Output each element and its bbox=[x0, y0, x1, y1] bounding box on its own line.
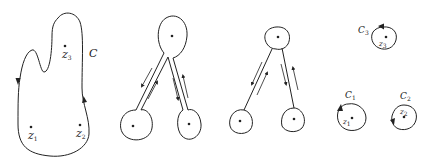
panel-2-contour bbox=[121, 16, 202, 140]
left-cut-inner bbox=[141, 57, 168, 110]
point-dot bbox=[188, 123, 191, 126]
label-z2: z2 bbox=[75, 127, 86, 140]
label-c3: C3 bbox=[358, 25, 369, 36]
point-z1-dot bbox=[30, 126, 33, 129]
point-z3-dot bbox=[64, 45, 67, 48]
point-dot bbox=[293, 118, 296, 121]
left-cut-outer bbox=[136, 53, 164, 110]
label-c2: C2 bbox=[400, 91, 411, 102]
panel-4-circles: C3 z3 C1 z1 C2 z2 bbox=[337, 24, 416, 131]
label-z3: z3 bbox=[378, 40, 387, 49]
diagram-canvas: z3 z1 z2 C bbox=[0, 0, 426, 165]
label-z2: z2 bbox=[399, 108, 408, 117]
right-cut bbox=[282, 48, 294, 108]
label-z1: z1 bbox=[342, 118, 351, 127]
point-dot bbox=[171, 35, 174, 38]
point-z2-dot bbox=[79, 124, 82, 127]
panel-3-points bbox=[239, 36, 296, 123]
arrow-left-icon bbox=[378, 24, 384, 30]
panel-3-contour bbox=[230, 27, 305, 134]
label-z1: z1 bbox=[27, 129, 38, 142]
label-c: C bbox=[89, 47, 98, 60]
bottom-left-lobe bbox=[121, 110, 153, 140]
bottom-right-circle bbox=[282, 108, 305, 132]
point-dot bbox=[239, 120, 242, 123]
label-c1: C1 bbox=[345, 90, 356, 101]
label-z3: z3 bbox=[61, 48, 72, 61]
point-z1-dot bbox=[351, 117, 354, 120]
point-z3-dot bbox=[385, 36, 388, 39]
left-cut bbox=[244, 49, 272, 110]
point-dot bbox=[277, 36, 280, 39]
panel-1-contour: z3 z1 z2 C bbox=[16, 13, 99, 156]
top-circle bbox=[265, 27, 290, 49]
point-dot bbox=[132, 125, 135, 128]
arrow-up-icon bbox=[337, 104, 343, 111]
